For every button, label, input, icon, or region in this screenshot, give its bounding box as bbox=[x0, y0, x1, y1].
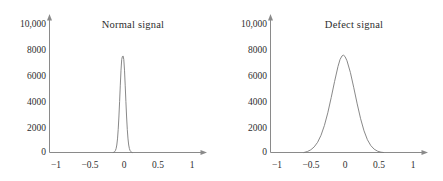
x-axis-tick-labels-normal: −1 −0.5 0 0.5 1 bbox=[0, 0, 222, 181]
signal-comparison-figure: Normal signal 10,000 8000 6000 4000 2000… bbox=[0, 0, 443, 181]
x-tick-label: 1 bbox=[393, 160, 433, 170]
chart-panel-defect: Defect signal 10,000 8000 6000 4000 2000… bbox=[221, 0, 443, 181]
x-tick-label: 1 bbox=[172, 160, 212, 170]
x-axis-tick-labels-defect: −1 −0.5 0 0.5 1 bbox=[221, 0, 443, 181]
chart-panel-normal: Normal signal 10,000 8000 6000 4000 2000… bbox=[0, 0, 222, 181]
